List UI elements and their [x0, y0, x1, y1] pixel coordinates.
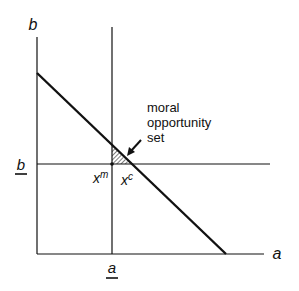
x-axis-label: a	[273, 245, 282, 262]
xc-label: xc	[120, 171, 133, 188]
annotation-line-3: set	[147, 130, 165, 145]
a-bar-label: a	[108, 259, 116, 276]
y-axis-label: b	[29, 16, 38, 33]
annotation-line-2: opportunity	[147, 115, 212, 130]
annotation-line-1: moral	[147, 100, 180, 115]
b-bar-label: b	[17, 156, 25, 173]
xm-label: xm	[92, 169, 108, 186]
annotation-arrow-shaft	[131, 140, 141, 151]
moral-opportunity-diagram: b a b a xm xc moral opportunity set	[0, 0, 299, 291]
xm-point	[110, 162, 114, 166]
